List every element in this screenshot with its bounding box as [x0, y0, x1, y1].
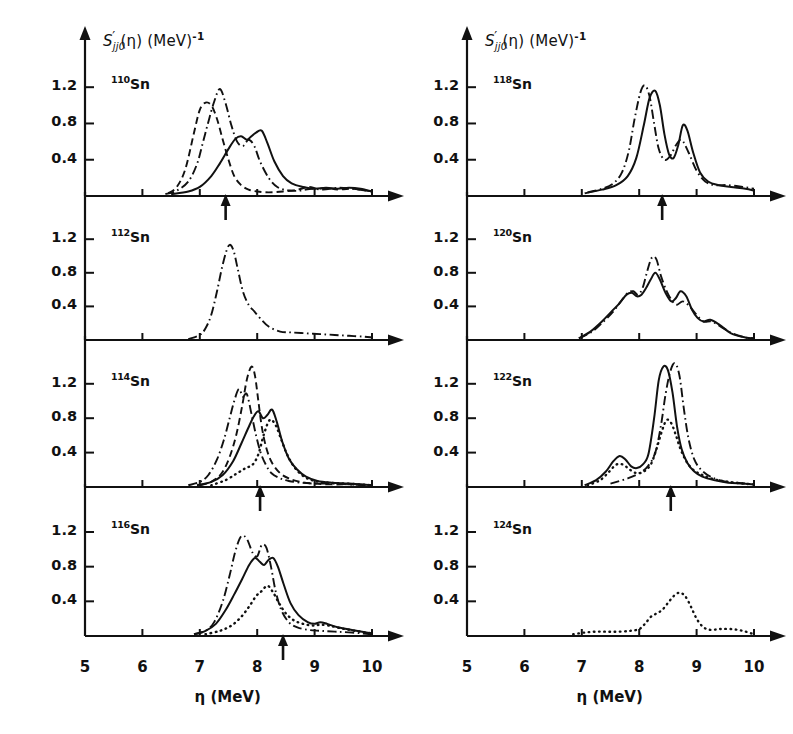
panel-label-element: Sn	[130, 521, 150, 537]
panel-label-element: Sn	[130, 76, 150, 92]
panel-sn114	[85, 336, 404, 511]
y-axis-tick-label: 1.2	[43, 374, 77, 390]
curve-sn116-dotted	[206, 586, 372, 635]
panel-sn118	[462, 26, 787, 220]
y-axis-tick-label: 0.4	[425, 443, 459, 459]
right-column-plot-svg	[397, 0, 793, 734]
panel-sn124	[467, 484, 786, 642]
curve-sn122-solid	[585, 366, 754, 486]
y-axis-tick-label: 0.8	[425, 408, 459, 424]
y-axis-tick-label: 0.4	[425, 150, 459, 166]
panel-label-sn114: 114Sn	[111, 371, 150, 389]
y-axis-tick-label: 0.8	[43, 263, 77, 279]
panel-sn122	[467, 336, 786, 511]
y-axis-tick-label: 1.2	[425, 374, 459, 390]
x-axis-tick-label: 5	[74, 658, 96, 676]
curve-sn114-solid	[197, 409, 372, 485]
y-axis-arrowhead	[80, 26, 91, 40]
y-axis-tick-label: 0.4	[43, 591, 77, 607]
y-axis-tick-label: 1.2	[43, 229, 77, 245]
curve-sn112-dash-dot	[188, 245, 372, 339]
panel-label-mass: 122	[493, 371, 512, 382]
x-axis-tick-label: 5	[456, 658, 478, 676]
panel-label-element: Sn	[130, 228, 150, 244]
y-axis-tick-label: 0.4	[425, 591, 459, 607]
y-axis-tick-label: 0.4	[425, 296, 459, 312]
x-axis-tick-label: 7	[571, 658, 593, 676]
panel-label-element: Sn	[512, 228, 532, 244]
y-axis-arrowhead	[462, 26, 473, 40]
y-axis-tick-label: 1.2	[43, 522, 77, 538]
y-axis-tick-label: 0.8	[425, 113, 459, 129]
y-axis-tick-label: 0.8	[43, 408, 77, 424]
panel-label-mass: 118	[493, 74, 512, 85]
y-axis-tick-label: 0.4	[43, 443, 77, 459]
panel-label-sn124: 124Sn	[493, 519, 532, 537]
x-axis-arrowhead	[770, 191, 786, 202]
y-axis-title-right: Sjj0′(η) (MeV)-1	[485, 30, 586, 52]
x-axis-tick-label: 9	[686, 658, 708, 676]
panel-sn120	[467, 192, 786, 346]
curve-sn110-solid	[171, 130, 372, 194]
x-axis-arrowhead	[770, 482, 786, 493]
panel-label-mass: 112	[111, 227, 130, 238]
x-axis-label: η (MeV)	[195, 688, 261, 706]
x-axis-tick-label: 10	[743, 658, 765, 676]
panel-label-mass: 124	[493, 519, 512, 530]
curve-sn120-dash-dot	[579, 257, 754, 339]
curve-sn114-dashed	[200, 367, 372, 486]
x-axis-tick-label: 8	[628, 658, 650, 676]
x-axis-tick-label: 10	[361, 658, 383, 676]
curve-sn118-solid	[585, 91, 754, 194]
panel-label-sn122: 122Sn	[493, 371, 532, 389]
panel-label-sn116: 116Sn	[111, 519, 150, 537]
y-axis-tick-label: 0.8	[43, 557, 77, 573]
panel-sn112	[85, 192, 404, 346]
panel-label-sn110: 110Sn	[111, 74, 150, 92]
y-axis-tick-label: 1.2	[43, 77, 77, 93]
curve-sn110-dash-dot	[165, 89, 372, 194]
curve-sn116-solid	[194, 558, 372, 635]
panel-label-element: Sn	[130, 373, 150, 389]
panel-label-sn118: 118Sn	[493, 74, 532, 92]
y-axis-tick-label: 0.4	[43, 150, 77, 166]
panel-label-element: Sn	[512, 373, 532, 389]
panel-label-mass: 110	[111, 74, 130, 85]
x-axis-tick-label: 6	[131, 658, 153, 676]
panel-label-mass: 120	[493, 227, 512, 238]
y-axis-title-left: Sjj0′(η) (MeV)-1	[103, 30, 204, 52]
panel-label-mass: 116	[111, 519, 130, 530]
x-axis-arrowhead	[770, 335, 786, 346]
curve-sn114-dotted	[211, 420, 372, 486]
curve-sn124-dotted	[573, 593, 754, 635]
y-axis-tick-label: 0.8	[425, 557, 459, 573]
y-axis-title-rest: (η) (MeV)	[502, 32, 574, 50]
x-axis-tick-label: 6	[513, 658, 535, 676]
y-axis-title-exponent: -1	[192, 30, 204, 42]
figure-root: Sjj0′(η) (MeV)-1 Sjj0′(η) (MeV)-1 110Sn0…	[0, 0, 793, 734]
y-axis-title-exponent: -1	[574, 30, 586, 42]
y-axis-tick-label: 1.2	[425, 229, 459, 245]
y-axis-tick-label: 0.8	[43, 113, 77, 129]
left-column-plot-svg	[0, 0, 396, 734]
y-axis-title-rest: (η) (MeV)	[120, 32, 192, 50]
panel-sn116	[85, 484, 404, 660]
x-axis-tick-label: 7	[189, 658, 211, 676]
panel-label-mass: 114	[111, 371, 130, 382]
x-axis-arrowhead	[770, 631, 786, 642]
x-axis-tick-label: 9	[304, 658, 326, 676]
y-axis-tick-label: 1.2	[425, 77, 459, 93]
figure-column-right: Sjj0′(η) (MeV)-1	[397, 0, 793, 734]
curve-sn118-dash-dot	[588, 85, 754, 192]
y-axis-tick-label: 0.8	[425, 263, 459, 279]
figure-column-left: Sjj0′(η) (MeV)-1	[0, 0, 396, 734]
panel-label-sn112: 112Sn	[111, 227, 150, 245]
panel-label-element: Sn	[512, 521, 532, 537]
x-axis-label: η (MeV)	[577, 688, 643, 706]
panel-label-element: Sn	[512, 76, 532, 92]
y-axis-tick-label: 1.2	[425, 522, 459, 538]
panel-label-sn120: 120Sn	[493, 227, 532, 245]
y-axis-tick-label: 0.4	[43, 296, 77, 312]
panel-sn110	[80, 26, 405, 220]
x-axis-tick-label: 8	[246, 658, 268, 676]
